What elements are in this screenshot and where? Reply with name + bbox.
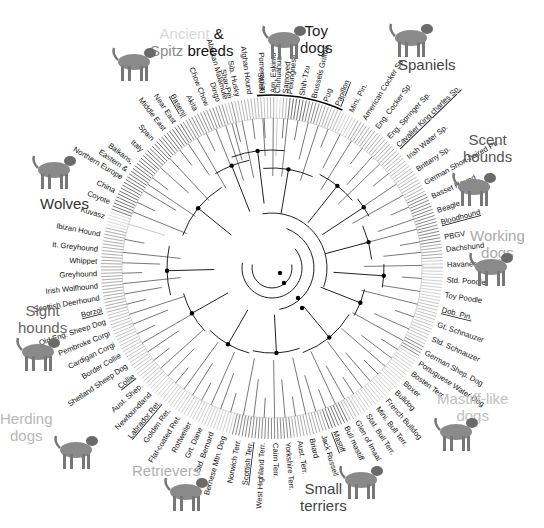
breed-label: Norwich Terr. <box>225 439 242 484</box>
bloodhound-photo-icon <box>448 165 502 209</box>
wolf-photo-icon <box>28 148 82 192</box>
breed-label: West Highland Terr. <box>254 442 266 508</box>
breed-label: It. Greyhound <box>52 240 99 254</box>
breed-label: Borzoi <box>80 305 103 319</box>
breed-label: Greyhound <box>59 269 97 279</box>
breed-label: Shih-Tzu <box>297 65 311 96</box>
basenji-photo-icon <box>108 40 162 84</box>
breed-label: Briard <box>307 437 320 459</box>
springer-photo-icon <box>385 16 439 60</box>
breed-label: Toy Poodle <box>444 290 483 305</box>
breed-label: Italy <box>129 138 146 154</box>
breed-label: PBGV <box>443 229 466 242</box>
borzoi-photo-icon <box>12 330 66 374</box>
clade-label-scent-hounds: Scenthounds <box>463 131 512 165</box>
breed-label: Irish Wolfhound <box>45 281 98 295</box>
breed-label: Ibizan Hound <box>56 221 102 238</box>
breed-label: Scottish Terr. <box>240 441 254 486</box>
breed-label: Cairn Terr. <box>271 443 281 478</box>
breed-label: Aust. Terr. <box>295 440 309 475</box>
breed-label: Papillon <box>333 79 351 107</box>
labrador-photo-icon <box>160 470 214 514</box>
breed-label: Pug <box>321 87 334 103</box>
doberman-photo-icon <box>465 245 519 289</box>
breed-label: Whippet <box>69 256 98 266</box>
breed-label: Saluki <box>256 72 266 94</box>
collie-photo-icon <box>50 428 104 472</box>
papillon-photo-icon <box>258 18 312 62</box>
scottie-photo-icon <box>335 458 389 502</box>
breed-label: Yorkshire Terr. <box>283 442 296 491</box>
mastiff-photo-icon <box>430 410 484 454</box>
breed-label: Spain <box>136 122 156 142</box>
clade-label-ancient-spitz: Ancient & Spitz breeds <box>150 25 233 59</box>
clade-label-herding-dogs: Herdingdogs <box>0 410 53 444</box>
clade-label-wolves: Wolves <box>40 195 89 212</box>
breed-label: Dob. Pin. <box>441 305 473 321</box>
